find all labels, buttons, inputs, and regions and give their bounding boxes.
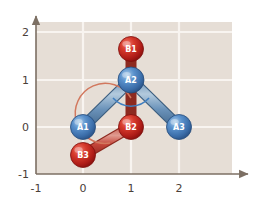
atom-label-b1: B1: [125, 45, 137, 54]
atom-a3: A3: [167, 115, 192, 140]
y-tick-labels: 2 1 0 -1: [18, 26, 29, 181]
x-tick-0: 0: [80, 182, 87, 195]
y-tick-2: 2: [22, 26, 29, 39]
molecular-geometry-chart: B1 A2 A1 B2 A3: [0, 0, 265, 202]
atom-b3: B3: [71, 143, 96, 168]
x-tick-1: 1: [128, 182, 135, 195]
atom-a1: A1: [71, 115, 96, 140]
y-tick-neg1: -1: [18, 168, 29, 181]
atom-label-b3: B3: [77, 151, 89, 160]
y-tick-0: 0: [22, 121, 29, 134]
atom-label-a3: A3: [173, 123, 185, 132]
atom-label-a1: A1: [77, 123, 89, 132]
x-tick-labels: -1 0 1 2: [31, 182, 183, 195]
atom-a2: A2: [118, 67, 144, 93]
x-tick-2: 2: [176, 182, 183, 195]
atom-label-b2: B2: [125, 123, 137, 132]
atom-b1: B1: [119, 37, 144, 62]
x-tick-neg1: -1: [31, 182, 42, 195]
figure-canvas: B1 A2 A1 B2 A3: [0, 0, 265, 202]
atom-b2: B2: [119, 115, 144, 140]
y-tick-1: 1: [22, 74, 29, 87]
atom-label-a2: A2: [125, 76, 137, 85]
